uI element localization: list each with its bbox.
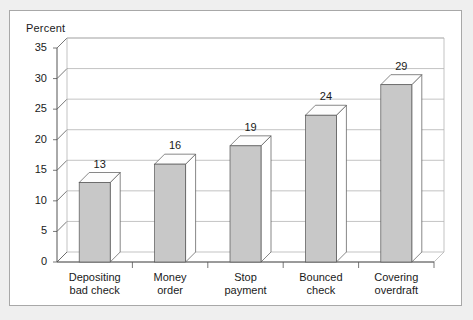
axis-depth-connector — [57, 221, 67, 231]
bar-side-face — [186, 154, 196, 262]
y-axis-tick-label: 20 — [23, 133, 47, 145]
bar-side-face — [412, 75, 422, 262]
x-axis-category-label: Coveringoverdraft — [353, 271, 439, 297]
axis-depth-connector — [57, 160, 67, 170]
category-label-line: Stop — [203, 271, 289, 284]
bar-front-face[interactable] — [155, 164, 186, 262]
category-label-line: Depositing — [52, 271, 138, 284]
y-axis-tick-label: 30 — [23, 72, 47, 84]
x-axis-category-label: Moneyorder — [127, 271, 213, 297]
y-axis-tick-label: 35 — [23, 41, 47, 53]
y-axis-tick-label: 10 — [23, 194, 47, 206]
axis-depth-connector — [57, 130, 67, 140]
bar-value-label: 16 — [155, 139, 195, 151]
bar-side-face — [261, 136, 271, 262]
bar-value-label: 24 — [306, 90, 346, 102]
bar-front-face[interactable] — [230, 146, 261, 262]
axis-depth-connector — [57, 38, 67, 48]
x-axis-category-label: Bouncedcheck — [278, 271, 364, 297]
category-label-line: Money — [127, 271, 213, 284]
bar-value-label: 19 — [231, 121, 271, 133]
category-label-line: Covering — [353, 271, 439, 284]
x-axis-category-label: Depositingbad check — [52, 271, 138, 297]
axis-depth-connector — [57, 99, 67, 109]
category-label-line: check — [278, 284, 364, 297]
bar-front-face[interactable] — [381, 85, 412, 262]
x-axis-category-label: Stoppayment — [203, 271, 289, 297]
y-axis-tick-label: 5 — [23, 224, 47, 236]
y-axis-tick-label: 0 — [23, 255, 47, 267]
bar-value-label: 29 — [381, 60, 421, 72]
bar-front-face[interactable] — [79, 183, 110, 262]
bar-group — [79, 173, 120, 262]
bar-group — [155, 154, 196, 262]
bar-group — [381, 75, 422, 262]
bar-side-face — [110, 173, 120, 262]
y-axis-tick-label: 15 — [23, 163, 47, 175]
bar-group — [230, 136, 271, 262]
category-label-line: payment — [203, 284, 289, 297]
chart-screenshot: Percent 0510152025303513Depositingbad ch… — [0, 0, 473, 320]
category-label-line: bad check — [52, 284, 138, 297]
bar-group — [305, 105, 346, 262]
bar-value-label: 13 — [80, 158, 120, 170]
plot-area: 0510152025303513Depositingbad check16Mon… — [0, 0, 473, 320]
axis-depth-connector — [57, 69, 67, 79]
category-label-line: Bounced — [278, 271, 364, 284]
y-axis-tick-label: 25 — [23, 102, 47, 114]
category-label-line: order — [127, 284, 213, 297]
bar-side-face — [336, 105, 346, 262]
category-label-line: overdraft — [353, 284, 439, 297]
axis-depth-connector — [57, 191, 67, 201]
bar-front-face[interactable] — [305, 115, 336, 262]
